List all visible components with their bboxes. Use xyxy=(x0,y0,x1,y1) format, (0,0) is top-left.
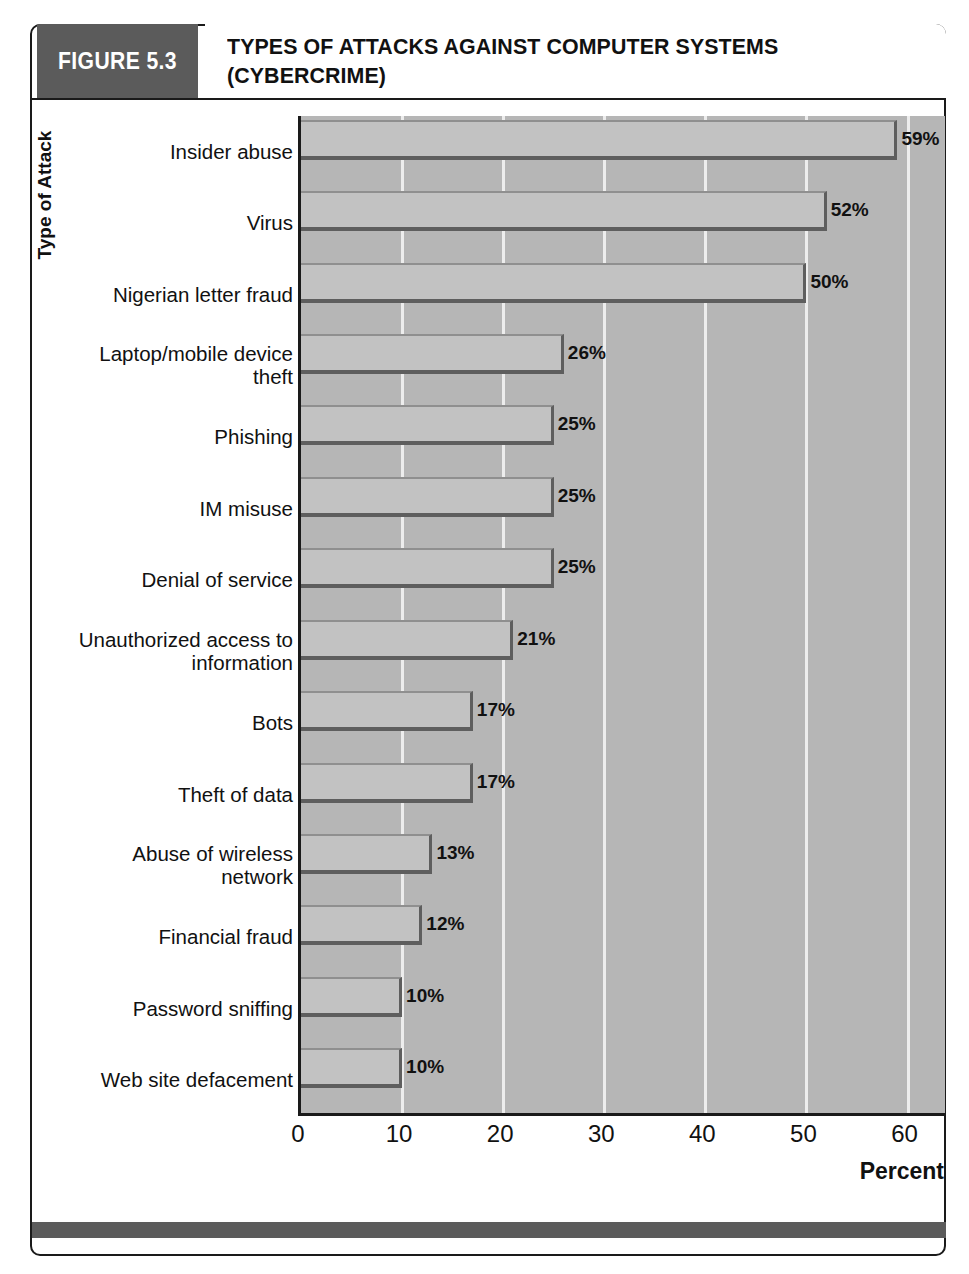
category-label: Theft of data xyxy=(31,783,293,806)
category-label-line: Bots xyxy=(31,712,293,735)
bar-row: Insider abuse59% xyxy=(301,116,945,187)
category-label: Financial fraud xyxy=(31,926,293,949)
x-axis-ticks: 0102030405060 xyxy=(298,1120,945,1160)
category-label: Nigerian letter fraud xyxy=(31,283,293,306)
x-axis-title: Percent xyxy=(860,1158,944,1185)
category-label: Insider abuse xyxy=(31,140,293,163)
figure-title-line-1: TYPES OF ATTACKS AGAINST COMPUTER SYSTEM… xyxy=(227,33,778,62)
category-label-line: Abuse of wireless xyxy=(31,843,293,866)
bar: 17% xyxy=(301,763,473,803)
chart-area: Type of Attack Insider abuse59%Virus52%N… xyxy=(32,102,944,1212)
category-label: IM misuse xyxy=(31,497,293,520)
bar-value-label: 52% xyxy=(831,199,869,221)
bar-container: 21% xyxy=(301,620,513,660)
figure-title: TYPES OF ATTACKS AGAINST COMPUTER SYSTEM… xyxy=(205,24,946,98)
bar-row: Nigerian letter fraud50% xyxy=(301,259,945,330)
bar-value-label: 59% xyxy=(901,128,939,150)
bar-row: Password sniffing10% xyxy=(301,973,945,1044)
category-label-line: Virus xyxy=(31,212,293,235)
bar-value-label: 50% xyxy=(810,271,848,293)
x-tick-label: 50 xyxy=(790,1120,817,1148)
category-label: Phishing xyxy=(31,426,293,449)
category-label-line: IM misuse xyxy=(31,497,293,520)
category-label: Web site defacement xyxy=(31,1069,293,1092)
bar-container: 17% xyxy=(301,691,473,731)
category-label-line: Web site defacement xyxy=(31,1069,293,1092)
bar-container: 26% xyxy=(301,334,564,374)
y-axis-title: Type of Attack xyxy=(28,112,62,292)
x-tick-label: 40 xyxy=(689,1120,716,1148)
bar: 17% xyxy=(301,691,473,731)
bar-row: Financial fraud12% xyxy=(301,902,945,973)
category-label-line: Financial fraud xyxy=(31,926,293,949)
bar-row: Laptop/mobile devicetheft26% xyxy=(301,330,945,401)
bar-container: 10% xyxy=(301,1048,402,1088)
category-label: Abuse of wirelessnetwork xyxy=(31,843,293,889)
bar: 13% xyxy=(301,834,432,874)
bar-row: Abuse of wirelessnetwork13% xyxy=(301,830,945,901)
category-label-line: Insider abuse xyxy=(31,140,293,163)
bar-row: Bots17% xyxy=(301,687,945,758)
x-tick-label: 30 xyxy=(588,1120,615,1148)
bar-container: 12% xyxy=(301,905,422,945)
bar-container: 25% xyxy=(301,477,554,517)
x-tick-label: 0 xyxy=(291,1120,304,1148)
bar-value-label: 17% xyxy=(477,699,515,721)
bar-value-label: 25% xyxy=(558,485,596,507)
figure-title-line-2: (CYBERCRIME) xyxy=(227,62,778,91)
bar-value-label: 25% xyxy=(558,556,596,578)
category-label-line: Nigerian letter fraud xyxy=(31,283,293,306)
bar-container: 50% xyxy=(301,263,806,303)
bar: 10% xyxy=(301,977,402,1017)
category-label: Unauthorized access toinformation xyxy=(31,629,293,675)
category-label-line: Unauthorized access to xyxy=(31,629,293,652)
bar-value-label: 13% xyxy=(436,842,474,864)
bar-row: Virus52% xyxy=(301,187,945,258)
category-label-line: Laptop/mobile device xyxy=(31,343,293,366)
bar-value-label: 10% xyxy=(406,985,444,1007)
figure-number-badge: FIGURE 5.3 xyxy=(37,24,198,98)
x-tick-label: 60 xyxy=(891,1120,918,1148)
bar-rows: Insider abuse59%Virus52%Nigerian letter … xyxy=(301,116,945,1113)
bar-row: Unauthorized access toinformation21% xyxy=(301,616,945,687)
bar: 52% xyxy=(301,191,827,231)
category-label-line: information xyxy=(31,652,293,675)
bar-row: Denial of service25% xyxy=(301,545,945,616)
category-label: Bots xyxy=(31,712,293,735)
x-tick-label: 20 xyxy=(487,1120,514,1148)
x-tick-label: 10 xyxy=(386,1120,413,1148)
bar: 25% xyxy=(301,405,554,445)
bar-container: 25% xyxy=(301,548,554,588)
category-label-line: Denial of service xyxy=(31,569,293,592)
bar-row: Phishing25% xyxy=(301,402,945,473)
bar: 26% xyxy=(301,334,564,374)
category-label-line: Password sniffing xyxy=(31,997,293,1020)
category-label: Password sniffing xyxy=(31,997,293,1020)
bar-row: Theft of data17% xyxy=(301,759,945,830)
bar: 25% xyxy=(301,548,554,588)
bar-container: 10% xyxy=(301,977,402,1017)
plot-area: Insider abuse59%Virus52%Nigerian letter … xyxy=(298,116,945,1116)
bar-value-label: 12% xyxy=(426,913,464,935)
bar-value-label: 26% xyxy=(568,342,606,364)
bar: 25% xyxy=(301,477,554,517)
bar-row: Web site defacement10% xyxy=(301,1045,945,1116)
bar: 10% xyxy=(301,1048,402,1088)
bar-container: 25% xyxy=(301,405,554,445)
bar-container: 52% xyxy=(301,191,827,231)
category-label-line: theft xyxy=(31,366,293,389)
category-label: Virus xyxy=(31,212,293,235)
bar: 12% xyxy=(301,905,422,945)
category-label-line: Theft of data xyxy=(31,783,293,806)
bar-value-label: 10% xyxy=(406,1056,444,1078)
figure-page: FIGURE 5.3 TYPES OF ATTACKS AGAINST COMP… xyxy=(0,0,969,1274)
category-label-line: network xyxy=(31,866,293,889)
bottom-rule xyxy=(32,1222,946,1238)
bar-container: 13% xyxy=(301,834,432,874)
bar-value-label: 17% xyxy=(477,771,515,793)
bar: 21% xyxy=(301,620,513,660)
bar-container: 59% xyxy=(301,120,897,160)
bar-container: 17% xyxy=(301,763,473,803)
figure-header: FIGURE 5.3 TYPES OF ATTACKS AGAINST COMP… xyxy=(30,24,946,100)
bar-value-label: 21% xyxy=(517,628,555,650)
